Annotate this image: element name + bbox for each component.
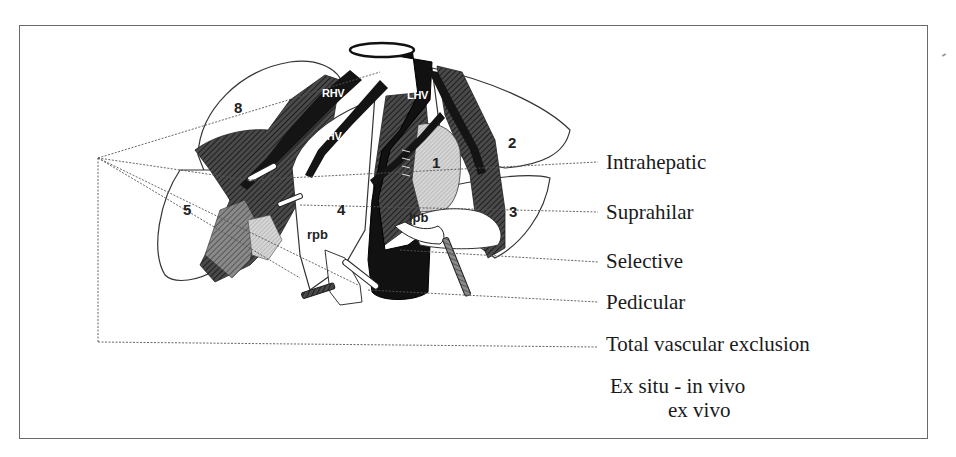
ivc-top-opening	[350, 43, 414, 57]
mhv-label: MHV	[318, 131, 342, 142]
rhv-label: RHV	[322, 88, 344, 99]
legend-intrahepatic: Intrahepatic	[606, 152, 706, 173]
legend-suprahilar: Suprahilar	[606, 202, 693, 223]
lhv-label: LHV	[407, 90, 428, 101]
diagram-canvas: RHV MHV LHV 1 2 3 4 5 8 rpb lpb Intrahep…	[0, 0, 956, 457]
segment-2-label: 2	[508, 135, 516, 150]
segment-3-label: 3	[509, 204, 517, 219]
segment-8-label: 8	[234, 100, 242, 115]
lpb-label: lpb	[409, 211, 429, 224]
legend-pedicular: Pedicular	[606, 292, 685, 313]
legend-ex-situ-in-vivo: Ex situ - in vivo	[610, 376, 745, 397]
liver-illustration	[0, 0, 956, 457]
legend-ex-vivo: ex vivo	[668, 400, 730, 421]
rpb-label: rpb	[307, 228, 328, 241]
segment-1-label: 1	[432, 155, 440, 170]
legend-total-vascular-exclusion: Total vascular exclusion	[606, 334, 810, 355]
legend-selective: Selective	[606, 251, 683, 272]
segment-5-label: 5	[183, 202, 191, 217]
segment-4-label: 4	[337, 202, 345, 217]
